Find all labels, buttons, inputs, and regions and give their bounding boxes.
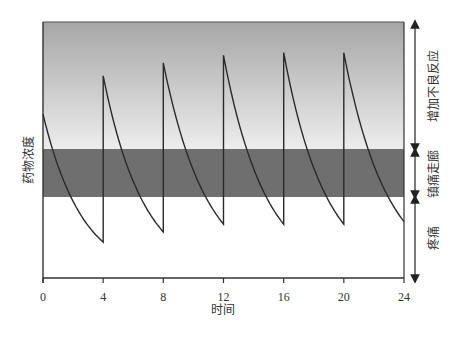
zone-label-corridor: 镇痛走廊	[426, 150, 441, 198]
x-axis-title: 时间	[211, 303, 235, 317]
x-tick-label: 20	[338, 290, 350, 304]
x-tick-label: 4	[100, 290, 106, 304]
x-tick-label: 0	[40, 290, 46, 304]
x-tick-label: 24	[398, 290, 410, 304]
zone-label-pain: 疼痛	[426, 226, 441, 250]
zone-label-adverse: 增加不良反应	[426, 50, 441, 122]
x-tick-label: 8	[160, 290, 166, 304]
chart: 04812162024 时间 药物浓度 增加不良反应 镇痛走廊 疼痛	[0, 0, 451, 337]
x-tick-label: 12	[218, 290, 230, 304]
x-axis-ticks: 04812162024	[40, 278, 410, 304]
x-tick-label: 16	[278, 290, 290, 304]
y-axis-title: 药物浓度	[21, 136, 36, 184]
